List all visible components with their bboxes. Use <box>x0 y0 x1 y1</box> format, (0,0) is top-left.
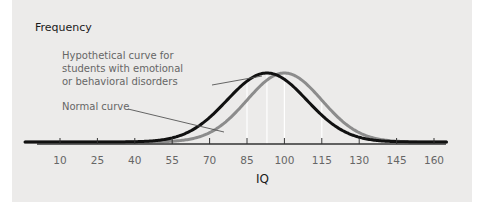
x-tick-label: 160 <box>424 154 444 166</box>
annotation-text: students with emotional <box>62 63 183 74</box>
annotation-leader-line <box>212 76 262 85</box>
reference-lines <box>247 75 359 144</box>
annotation-text: or behavioral disorders <box>62 76 178 87</box>
chart: Frequency Hypothetical curve forstudents… <box>0 0 488 204</box>
x-tick-label: 70 <box>203 154 216 166</box>
annotation-text: Hypothetical curve for <box>62 50 174 61</box>
annotation-text: Normal curve <box>62 101 129 112</box>
x-tick-label: 130 <box>349 154 369 166</box>
y-axis-label: Frequency <box>35 21 92 34</box>
x-tick-label: 145 <box>387 154 407 166</box>
x-tick-label: 40 <box>128 154 141 166</box>
x-tick-label: 55 <box>166 154 179 166</box>
x-tick-label: 25 <box>91 154 104 166</box>
annotations: Hypothetical curve forstudents with emot… <box>62 50 262 132</box>
x-tick-label: 100 <box>274 154 294 166</box>
annotation-leader-line <box>128 109 224 132</box>
x-tick-label: 10 <box>53 154 66 166</box>
x-tick-label: 115 <box>312 154 332 166</box>
x-axis-label: IQ <box>256 172 269 186</box>
x-tick-label: 85 <box>240 154 253 166</box>
